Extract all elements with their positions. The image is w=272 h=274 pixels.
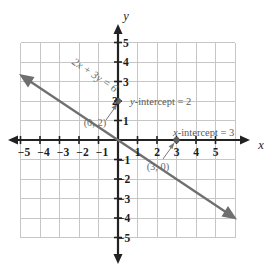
x-axis-arrow-left [8, 136, 18, 145]
y-tick-label-3: 3 [123, 76, 129, 88]
x-tick-label-3: 3 [174, 146, 180, 158]
y-axis [114, 24, 123, 264]
point-label-y-intercept: (0, 2) [84, 117, 107, 129]
y-axis-arrow-up [114, 24, 123, 34]
x-tick-label-4: 4 [193, 146, 199, 158]
coordinate-plane-figure: −5 −4 −3 −2 −1 1 2 3 4 5 5 4 3 2 1 −1 −2… [0, 0, 272, 274]
x-tick-label-2: 2 [154, 146, 160, 158]
x-intercept-annotation-rest: -intercept = 3 [178, 127, 235, 138]
x-axis-label: x [257, 138, 264, 152]
graph-canvas: −5 −4 −3 −2 −1 1 2 3 4 5 5 4 3 2 1 −1 −2… [0, 0, 272, 274]
y-axis-label: y [121, 9, 129, 23]
y-tick-label--5: −5 [118, 232, 131, 244]
x-tick-label--1: −1 [96, 146, 109, 158]
y-tick-label-4: 4 [123, 56, 129, 68]
y-tick-label--4: −4 [118, 212, 131, 224]
x-tick-label--4: −4 [37, 146, 50, 158]
x-tick-label--2: −2 [76, 146, 89, 158]
y-axis-arrow-down [114, 254, 123, 264]
x-intercept-annotation: x-intercept = 3 [172, 127, 234, 138]
point-label-x-intercept: (3, 0) [147, 161, 170, 173]
y-tick-label-2: 2 [112, 95, 118, 107]
y-intercept-annotation: y-intercept = 2 [129, 96, 191, 107]
y-tick-label-5: 5 [123, 37, 129, 49]
x-tick-label-5: 5 [213, 146, 219, 158]
y-tick-label-1: 1 [123, 115, 129, 127]
y-tick-label--1: −1 [118, 154, 131, 166]
y-intercept-annotation-rest: -intercept = 2 [135, 96, 192, 107]
y-tick-label--2: −2 [118, 173, 131, 185]
y-tick-label--3: −3 [118, 193, 131, 205]
equation-label: 2x + 3y = 6 [70, 55, 120, 94]
x-tick-label--3: −3 [57, 146, 70, 158]
x-tick-label--5: −5 [18, 146, 31, 158]
x-tick-label-1: 1 [135, 146, 141, 158]
line-arrow-upper-left [19, 74, 35, 88]
x-axis-arrow-right [240, 136, 250, 145]
